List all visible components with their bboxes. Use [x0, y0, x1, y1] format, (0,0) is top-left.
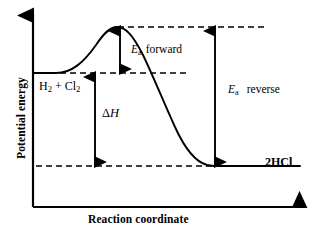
- reactant-cl-subscript: 2: [76, 84, 80, 94]
- reactant-plus-cl: + Cl: [52, 79, 76, 93]
- ea-reverse-symbol: E: [228, 83, 235, 95]
- y-axis-title: Potential energy: [15, 58, 27, 178]
- ea-forward-label: Eaforward: [131, 43, 182, 57]
- energy-diagram-canvas: [0, 0, 324, 237]
- product-species-label: 2HCl: [265, 155, 292, 170]
- reactant-species-label: H2 + Cl2: [39, 79, 80, 94]
- ea-forward-word: forward: [146, 43, 182, 55]
- ea-reverse-word: reverse: [247, 83, 280, 95]
- ea-forward-subscript: a: [138, 48, 142, 57]
- enthalpy-h-symbol: H: [110, 106, 119, 120]
- ea-reverse-subscript: a: [235, 88, 239, 97]
- delta-symbol: Δ: [102, 106, 110, 120]
- ea-reverse-label: Eareverse: [228, 83, 280, 97]
- reactant-h-symbol: H: [39, 79, 48, 93]
- x-axis-title: Reaction coordinate: [88, 213, 189, 225]
- ea-forward-symbol: E: [131, 43, 138, 55]
- energy-profile-diagram: Potential energy Reaction coordinate H2 …: [0, 0, 324, 237]
- delta-h-label: ΔH: [102, 106, 119, 121]
